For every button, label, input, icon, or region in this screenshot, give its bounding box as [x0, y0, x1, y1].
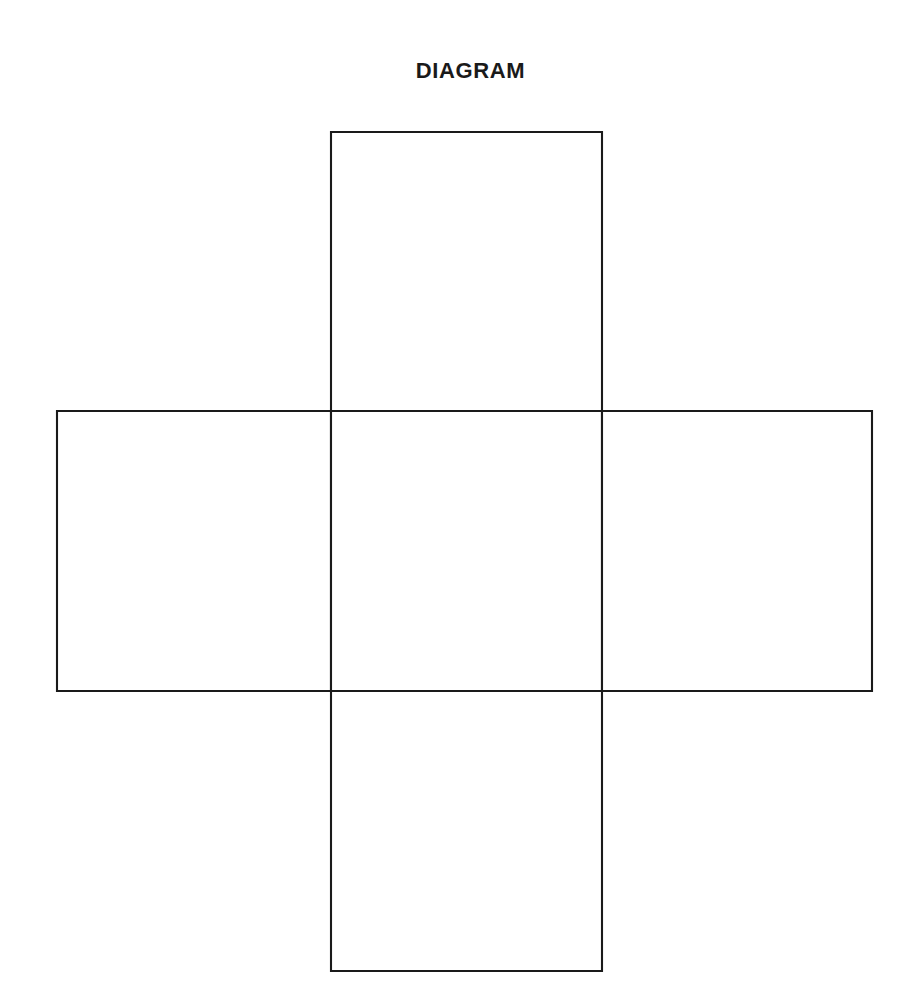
page-root: DIAGRAM [0, 0, 923, 1008]
net-cell-top[interactable] [331, 132, 602, 411]
net-cell-bottom[interactable] [331, 691, 602, 971]
net-cell-center[interactable] [331, 411, 602, 691]
diagram-net [0, 0, 923, 1008]
net-cell-left[interactable] [57, 411, 331, 691]
net-svg [0, 0, 923, 1008]
net-cell-right[interactable] [602, 411, 872, 691]
